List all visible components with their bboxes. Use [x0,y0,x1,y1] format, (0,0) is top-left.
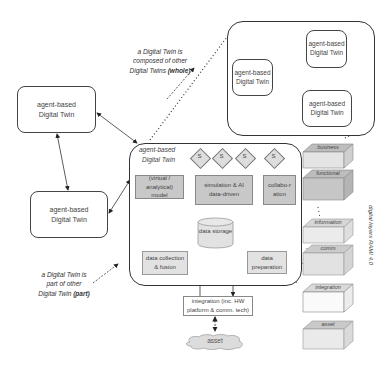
layer-comm-label: comm [308,245,348,251]
whole-note-line2: composed of other [120,56,200,65]
layer-information-label: information [308,219,348,225]
layer-integration-label: integration [308,284,348,290]
part-note-line1: a Digital Twin is [34,270,94,279]
integration-label: integration (inc. HW platform & comm. te… [184,297,252,314]
rami-title: digital layers RAMI 4.0 [368,205,374,265]
main-twin-title-line2: Digital Twin [139,155,175,165]
composite-twin-bottom-right[interactable]: agent-based Digital Twin [302,90,352,127]
data-collection-label: data collection & fusion [143,254,187,271]
data-preparation-box[interactable]: data preparation [247,251,287,274]
service-s3-label: S [235,153,254,159]
service-s4-label: S [264,153,283,159]
service-s2[interactable]: S [215,151,230,166]
whole-note-line3a: Digital Twins [130,67,168,74]
layer-business-label: business [308,144,348,150]
part-note-line2: part of other [34,279,94,288]
whole-note-line3: Digital Twins (whole) [120,66,200,75]
model-box[interactable]: (virtual / analytical) model [135,175,184,199]
composite-twin-left-label: agent-based Digital Twin [233,69,272,87]
part-note-part: (part) [73,290,90,297]
whole-note-whole: (whole) [168,67,191,74]
composite-twin-bottom-right-label: agent-based Digital Twin [303,100,351,118]
composite-twin-top-right-label: agent-based Digital Twin [307,40,346,58]
data-storage-label: data storage [197,227,234,236]
asset-label: asset [184,337,246,344]
service-s1[interactable]: S [193,151,208,166]
service-s4[interactable]: S [267,151,282,166]
asset-cloud[interactable]: asset [184,333,246,351]
service-s1-label: S [190,153,209,159]
layer-functional-label: functional [308,170,348,176]
collaboration-label: collabo-ration [268,181,292,198]
part-note-line3: Digital Twin (part) [34,289,94,298]
left-twin-bottom-label: agent-based Digital Twin [39,205,99,224]
left-twin-top[interactable]: agent-based Digital Twin [17,86,96,133]
layer-integration[interactable]: integration [302,283,354,313]
part-note-line3a: Digital Twin [38,290,73,297]
layer-asset[interactable]: asset [302,320,354,350]
data-collection-box[interactable]: data collection & fusion [142,251,188,275]
simulation-label: simulation & AI data-driven [199,181,249,198]
left-twin-top-label: agent-based Digital Twin [27,100,87,119]
collaboration-box[interactable]: collabo-ration [263,175,296,205]
data-storage[interactable]: data storage [197,217,234,249]
layer-business[interactable]: business [302,143,354,169]
layer-asset-label: asset [308,321,348,327]
composite-twin-left[interactable]: agent-based Digital Twin [232,59,273,96]
main-twin-title: agent-based Digital Twin [139,145,175,165]
model-label: (virtual / analytical) model [137,174,182,200]
simulation-box[interactable]: simulation & AI data-driven [195,175,253,205]
composite-twin-top-right[interactable]: agent-based Digital Twin [306,30,347,68]
data-preparation-label: data preparation [249,254,285,271]
left-twin-bottom[interactable]: agent-based Digital Twin [30,191,108,238]
service-s2-label: S [212,153,231,159]
whole-note: a Digital Twin is composed of other Digi… [120,47,200,75]
integration-box[interactable]: integration (inc. HW platform & comm. te… [183,296,253,316]
layer-functional[interactable]: functional [302,169,354,201]
layer-information[interactable]: information [302,218,354,244]
whole-note-line1: a Digital Twin is [120,47,200,56]
layer-comm[interactable]: comm [302,244,354,276]
service-s3[interactable]: S [238,151,253,166]
main-twin-title-line1: agent-based [139,145,175,155]
part-note: a Digital Twin is part of other Digital … [34,270,94,298]
